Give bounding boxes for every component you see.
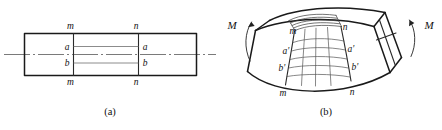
label-moment-left: M: [226, 19, 237, 31]
label-m-top-b: m: [290, 26, 297, 36]
fiber-curve-bottom: [287, 74, 350, 77]
label-b-prime-right: b': [352, 62, 360, 72]
figure-root: m n a a b b m n (a): [0, 0, 442, 130]
label-b-prime-left: b': [279, 63, 287, 73]
beam-right-far-end-edge: [385, 13, 402, 58]
deformed-grid-vertical-2: [316, 28, 317, 86]
top-surface-hatch-5: [295, 25, 342, 30]
label-a-prime-left: a': [283, 46, 291, 56]
caption-panel-b: (b): [320, 106, 333, 118]
label-m-bottom-b: m: [280, 88, 287, 98]
label-n-bottom-a: n: [134, 77, 139, 87]
deformed-section-line-mm: [286, 31, 295, 85]
fiber-curve-b-prime: [289, 65, 349, 68]
label-n-top-b: n: [343, 22, 348, 32]
beam-right-bottom-chamfer: [390, 58, 402, 73]
moment-arrow-right-head: [409, 20, 414, 26]
beam-top-near-edge: [256, 19, 375, 30]
panel-b-diagram: M M m n a' a' b' b' m n (b): [226, 8, 434, 118]
beam-right-end-edge: [374, 27, 390, 73]
fiber-curve-top: [293, 39, 344, 43]
label-b-left: b: [65, 58, 70, 68]
fiber-curve-mid: [290, 57, 347, 60]
label-moment-right: M: [423, 19, 434, 31]
label-a-prime-right: a': [348, 44, 356, 54]
label-n-top-a: n: [134, 21, 139, 31]
label-n-bottom-b: n: [350, 87, 355, 97]
label-m-bottom-a: m: [67, 77, 74, 87]
panel-a-diagram: m n a a b b m n (a): [0, 0, 442, 130]
label-a-right: a: [143, 42, 148, 52]
cut-block-mid-vertical: [380, 20, 396, 65]
fiber-curve-a-prime: [292, 48, 346, 51]
label-a-left: a: [65, 42, 70, 52]
caption-panel-a: (a): [104, 106, 116, 118]
label-m-top-a: m: [67, 21, 74, 31]
moment-arrow-right-arc: [410, 20, 415, 57]
moment-arrow-left-head: [248, 22, 255, 27]
label-b-right: b: [143, 58, 148, 68]
beam-left-end-edge: [248, 31, 256, 72]
